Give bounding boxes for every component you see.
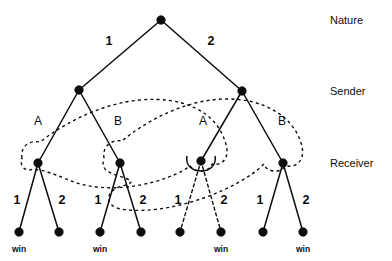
game-tree-diagram: 1 2 A B A B 1 2 1 2 1 2 1 2 win win win … <box>0 0 392 261</box>
edge-nature-to-sender-left <box>79 20 161 90</box>
edge-r1-to-t1 <box>19 163 38 232</box>
sender-message-a-left-label: A <box>34 114 42 128</box>
node-terminal-t1 <box>15 228 23 236</box>
edge-r2-to-t4 <box>120 163 141 232</box>
sender-message-a-right-label: A <box>199 114 207 128</box>
edge-sender-left-to-r1 <box>38 90 79 163</box>
node-terminal-t6 <box>217 228 225 236</box>
outcome-win-2: win <box>92 244 107 254</box>
receiver-action-r4-2-label: 2 <box>303 193 310 207</box>
role-label-nature: Nature <box>330 14 363 26</box>
receiver-action-r2-2-label: 2 <box>140 193 147 207</box>
nature-move-2-label: 2 <box>208 34 215 48</box>
outcome-win-1: win <box>11 244 26 254</box>
edge-r2-to-t3 <box>100 163 120 232</box>
node-terminal-t2 <box>55 228 63 236</box>
role-label-sender: Sender <box>330 85 366 97</box>
edge-r4-to-t7 <box>263 163 283 232</box>
receiver-action-r2-1-label: 1 <box>95 193 102 207</box>
role-label-receiver: Receiver <box>330 157 374 169</box>
node-terminal-t7 <box>259 228 267 236</box>
sender-message-b-left-label: B <box>114 114 122 128</box>
node-receiver-r2 <box>116 159 124 167</box>
node-receiver-r1 <box>34 159 42 167</box>
outcome-win-4: win <box>295 244 310 254</box>
receiver-action-r3-2-label: 2 <box>221 193 228 207</box>
node-sender-left <box>75 86 83 94</box>
edge-r4-to-t8 <box>283 163 303 232</box>
edge-nature-to-sender-right <box>161 20 242 91</box>
sender-message-b-right-label: B <box>278 114 286 128</box>
receiver-action-r3-1-label: 1 <box>175 193 182 207</box>
nature-move-1-label: 1 <box>106 34 113 48</box>
node-terminal-t8 <box>299 228 307 236</box>
receiver-action-r1-1-label: 1 <box>14 193 21 207</box>
node-receiver-r3 <box>197 157 205 165</box>
node-nature-root <box>157 16 165 24</box>
node-receiver-r4 <box>279 159 287 167</box>
node-terminal-t4 <box>137 228 145 236</box>
edge-r3-to-t5 <box>180 161 201 232</box>
receiver-action-r1-2-label: 2 <box>59 193 66 207</box>
node-terminal-t5 <box>176 228 184 236</box>
node-sender-right <box>238 87 246 95</box>
node-terminal-t3 <box>96 228 104 236</box>
edge-sender-right-to-r3 <box>201 91 242 161</box>
game-tree-svg: 1 2 A B A B 1 2 1 2 1 2 1 2 win win win … <box>0 0 392 261</box>
receiver-action-r4-1-label: 1 <box>257 193 264 207</box>
outcome-win-3: win <box>213 244 228 254</box>
edge-sender-right-to-r4 <box>242 91 283 163</box>
edge-r1-to-t2 <box>38 163 59 232</box>
edge-r3-to-t6 <box>201 161 221 232</box>
